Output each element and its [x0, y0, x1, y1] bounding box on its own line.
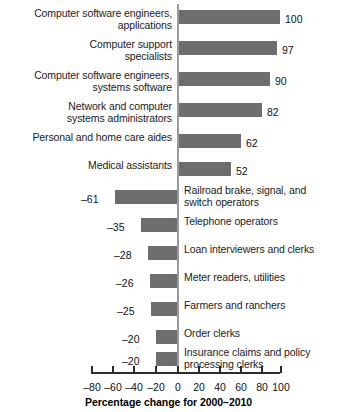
x-axis-tick	[240, 366, 242, 373]
category-label: Network and computer systems administrat…	[67, 100, 172, 124]
category-label: Computer software engineers, application…	[34, 7, 172, 31]
category-label: Insurance claims and policy processing c…	[184, 346, 310, 370]
category-label: Railroad brake, signal, and switch opera…	[184, 184, 306, 208]
category-label: Order clerks	[184, 327, 240, 339]
bar-value-label: 52	[236, 165, 248, 177]
category-label: Telephone operators	[184, 215, 278, 227]
bar	[178, 10, 280, 24]
x-axis-tick	[261, 366, 263, 373]
bar-value-label: –20	[122, 355, 140, 367]
category-label: Computer support specialists	[90, 38, 172, 62]
x-axis-tick	[280, 366, 282, 373]
bar-value-label: –28	[114, 249, 132, 261]
x-axis-tick	[133, 366, 135, 373]
diverging-bar-chart: Computer software engineers, application…	[0, 0, 337, 412]
bar-value-label: 62	[246, 137, 258, 149]
bar	[115, 190, 177, 204]
bar	[148, 246, 177, 260]
bar-value-label: 100	[285, 13, 303, 25]
x-axis-tick	[112, 366, 114, 373]
x-axis-tick	[91, 366, 93, 373]
bar-value-label: –26	[116, 277, 134, 289]
bar-value-label: 90	[275, 75, 287, 87]
category-label: Computer software engineers, systems sof…	[34, 69, 172, 93]
bar	[178, 41, 277, 55]
bar	[141, 218, 177, 232]
x-axis-tick	[219, 366, 221, 373]
category-label: Meter readers, utilities	[184, 271, 285, 283]
bar-value-label: –61	[81, 193, 99, 205]
bar-value-label: 97	[282, 44, 294, 56]
bar	[156, 352, 177, 366]
x-axis-tick	[155, 366, 157, 373]
category-label: Loan interviewers and clerks	[184, 243, 314, 255]
category-label: Personal and home care aides	[32, 131, 172, 143]
bar-value-label: 82	[267, 106, 279, 118]
bar	[178, 162, 231, 176]
bar	[151, 302, 177, 316]
bar	[178, 72, 270, 86]
zero-axis-line	[177, 4, 179, 373]
x-axis-tick	[198, 366, 200, 373]
category-label: Farmers and ranchers	[184, 299, 285, 311]
x-axis-caption: Percentage change for 2000–2010	[0, 396, 337, 408]
x-axis-tick	[177, 366, 179, 373]
bar	[156, 330, 177, 344]
bar-value-label: –25	[117, 305, 135, 317]
bar	[178, 103, 262, 117]
bar	[150, 274, 177, 288]
category-label: Medical assistants	[88, 159, 172, 171]
bar	[178, 134, 241, 148]
x-axis-tick-label: 100	[264, 381, 298, 393]
x-axis-line	[91, 372, 280, 374]
bar-value-label: –20	[122, 333, 140, 345]
bar-value-label: –35	[107, 221, 125, 233]
